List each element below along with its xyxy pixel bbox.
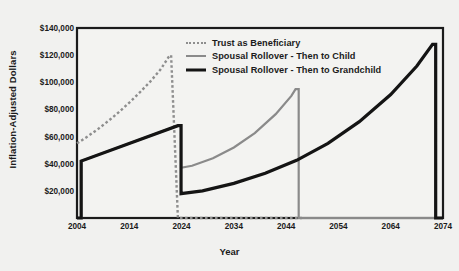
- y-axis-tick: $20,000: [18, 186, 74, 195]
- legend-item-label: Spousal Rollover - Then to Grandchild: [212, 65, 381, 75]
- y-axis-tick-labels: $20,000$40,000$60,000$80,000$100,000$120…: [18, 0, 74, 271]
- legend-swatch-icon: [186, 51, 206, 61]
- legend-item: Spousal Rollover - Then to Grandchild: [186, 63, 436, 77]
- y-axis-label-text: Inflation-Adjusted Dollars: [7, 50, 18, 168]
- y-axis-tick: $140,000: [18, 24, 74, 33]
- x-axis-tick: 2024: [172, 222, 190, 231]
- y-axis-tick: $40,000: [18, 159, 74, 168]
- x-axis-tick: 2054: [329, 222, 347, 231]
- x-axis-tick: 2034: [225, 222, 243, 231]
- legend-item-label: Spousal Rollover - Then to Child: [212, 51, 356, 61]
- x-axis-tick: 2044: [277, 222, 295, 231]
- x-axis-tick: 2074: [434, 222, 452, 231]
- legend-item: Spousal Rollover - Then to Child: [186, 50, 436, 64]
- legend-item-label: Trust as Beneficiary: [212, 38, 300, 48]
- x-axis-label: Year: [0, 246, 459, 257]
- y-axis-tick: $100,000: [18, 78, 74, 87]
- y-axis-tick: $120,000: [18, 51, 74, 60]
- chart-container: Inflation-Adjusted Dollars $20,000$40,00…: [0, 0, 459, 271]
- legend-item: Trust as Beneficiary: [186, 36, 436, 50]
- legend-swatch-icon: [186, 65, 206, 75]
- x-axis-tick: 2064: [382, 222, 400, 231]
- x-axis-tick: 2014: [120, 222, 138, 231]
- x-axis-tick: 2004: [68, 222, 86, 231]
- legend-swatch-icon: [186, 38, 206, 48]
- y-axis-tick: $80,000: [18, 105, 74, 114]
- y-axis-tick: $60,000: [18, 132, 74, 141]
- chart-legend: Trust as BeneficiarySpousal Rollover - T…: [186, 36, 436, 77]
